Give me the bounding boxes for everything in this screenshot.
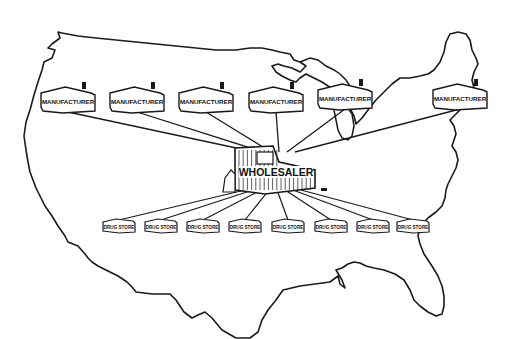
- wholesaler-label: WHOLESALER: [239, 166, 314, 178]
- drug-store-node: DRUG STORE: [315, 219, 347, 233]
- great-lakes-outline-2: [300, 58, 350, 86]
- drug-store-link-line: [277, 190, 288, 220]
- drug-store-label: DRUG STORE: [398, 225, 429, 230]
- manufacturer-node: MANUFACTURER: [318, 79, 372, 110]
- window-icon: [257, 152, 273, 164]
- wholesaler-node: WHOLESALER: [223, 146, 327, 194]
- drug-store-label: DRUG STORE: [104, 225, 135, 230]
- drug-store-node: DRUG STORE: [357, 219, 389, 233]
- manufacturer-node: MANUFACTURER: [179, 82, 233, 113]
- drug-store-node: DRUG STORE: [272, 219, 304, 233]
- tree-icon: [223, 170, 235, 192]
- chimney-icon: [151, 82, 155, 89]
- chimney-icon: [474, 79, 478, 86]
- manufacturer-label: MANUFACTURER: [111, 98, 164, 105]
- chimney-icon: [82, 82, 86, 89]
- drug-store-label: DRUG STORE: [188, 225, 219, 230]
- manufacturer-node: MANUFACTURER: [433, 79, 487, 110]
- drug-store-link-line: [301, 190, 413, 220]
- drug-store-link-line: [285, 190, 331, 220]
- manufacturer-link-line: [276, 112, 279, 152]
- manufacturer-node: MANUFACTURER: [249, 82, 303, 113]
- manufacturer-node: MANUFACTURER: [110, 82, 164, 113]
- manufacturer-link-line: [295, 109, 460, 152]
- network-nodes: MANUFACTURERMANUFACTURERMANUFACTURERMANU…: [41, 79, 487, 233]
- chimney-icon: [220, 82, 224, 89]
- manufacturer-link-line: [137, 112, 263, 152]
- drug-store-node: DRUG STORE: [397, 219, 429, 233]
- drug-store-label: DRUG STORE: [146, 225, 177, 230]
- drug-store-node: DRUG STORE: [103, 219, 135, 233]
- chimney-icon: [290, 82, 294, 89]
- chimney-icon: [359, 79, 363, 86]
- drug-store-link-line: [203, 190, 261, 220]
- manufacturer-node: MANUFACTURER: [41, 82, 95, 113]
- drug-store-label: DRUG STORE: [230, 225, 261, 230]
- drug-store-label: DRUG STORE: [316, 225, 347, 230]
- manufacturer-label: MANUFACTURER: [250, 98, 303, 105]
- drug-store-link-line: [161, 190, 253, 220]
- manufacturer-label: MANUFACTURER: [319, 95, 372, 102]
- drug-store-node: DRUG STORE: [187, 219, 219, 233]
- truck-icon: [321, 188, 327, 191]
- drug-store-node: DRUG STORE: [229, 219, 261, 233]
- manufacturer-link-line: [68, 112, 255, 152]
- diagram-canvas: MANUFACTURERMANUFACTURERMANUFACTURERMANU…: [0, 0, 521, 339]
- manufacturer-label: MANUFACTURER: [180, 98, 233, 105]
- drug-store-label: DRUG STORE: [358, 225, 389, 230]
- manufacturer-link-line: [287, 109, 345, 152]
- distribution-map-diagram: MANUFACTURERMANUFACTURERMANUFACTURERMANU…: [0, 0, 521, 339]
- manufacturer-label: MANUFACTURER: [434, 95, 487, 102]
- drug-store-node: DRUG STORE: [145, 219, 177, 233]
- manufacturer-label: MANUFACTURER: [42, 98, 95, 105]
- drug-store-link-line: [293, 190, 373, 220]
- drug-store-link-line: [119, 190, 245, 220]
- drug-store-label: DRUG STORE: [273, 225, 304, 230]
